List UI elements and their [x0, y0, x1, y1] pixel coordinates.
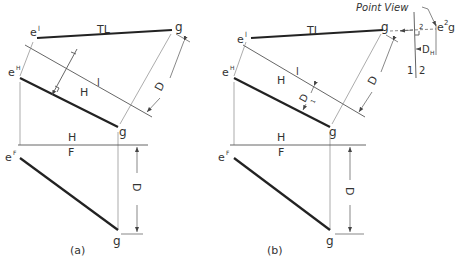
label-fold-2-top: 2 [419, 23, 423, 31]
horizontal-view-line [20, 78, 118, 127]
label-d-front: D [130, 183, 143, 191]
dim-aux-upper [381, 41, 393, 72]
label-e-sup: l [245, 31, 247, 39]
front-view-line [20, 158, 118, 230]
label-hf-h: H [68, 131, 76, 144]
label-d-front: D [343, 187, 356, 195]
label-fold-h: H [80, 86, 88, 99]
label-d-aux: D [152, 80, 167, 94]
projector-g [120, 34, 171, 124]
fold-line-h1 [25, 45, 152, 117]
descriptive-geometry-figure: e l g TL e H g H l H F e F g D D (a) [0, 0, 460, 261]
label-hf-f: F [278, 146, 284, 159]
label-ef: e [5, 151, 12, 164]
label-e: e [237, 33, 244, 46]
dim-d1-upper [311, 86, 314, 93]
label-ef-sup: F [226, 149, 230, 156]
label-eh: e [222, 66, 229, 79]
dim-aux-upper [170, 41, 184, 78]
label-ef-sup: F [13, 149, 17, 156]
label-ef: e [218, 151, 225, 164]
label-g-top: g [175, 20, 183, 34]
label-g-front: g [113, 234, 121, 248]
panel-b-labels: e l g TL e H g H l D 1 D H F e F g D (b)… [218, 2, 455, 257]
label-eh-sup: H [16, 64, 21, 71]
label-fold-1: 1 [407, 65, 413, 76]
label-eh: e [8, 66, 15, 79]
label-fold-h: H [277, 74, 285, 87]
label-g-h: g [119, 125, 127, 139]
panel-a-labels: e l g TL e H g H l H F e F g D D (a) [5, 20, 183, 257]
label-e2: e [437, 21, 444, 34]
label-tl: TL [96, 23, 111, 36]
right-angle-mark [415, 31, 419, 35]
point-view-leader [422, 7, 436, 26]
caption-b: (b) [267, 244, 283, 257]
label-fold-2: 2 [419, 65, 425, 76]
label-eh-sup: H [230, 64, 235, 71]
label-dh: D [422, 44, 430, 55]
label-g-top: g [381, 20, 389, 34]
projector-e [20, 42, 33, 76]
label-e2-g: g [448, 21, 455, 34]
dim-ext-top [386, 35, 398, 42]
dim-ext-top [176, 34, 190, 42]
panel-a [18, 30, 190, 234]
label-tl: TL [306, 24, 321, 37]
dim-d1-lower [303, 104, 306, 110]
label-g-h: g [329, 125, 337, 139]
label-fold-1: l [296, 66, 299, 77]
label-hf-f: F [68, 146, 74, 159]
label-e-sup: l [38, 25, 40, 33]
label-d-aux: D [365, 74, 380, 88]
projector-e [234, 42, 246, 76]
label-point-view: Point View [356, 2, 409, 13]
label-g-front: g [326, 234, 334, 248]
fold-line-h1 [243, 45, 365, 117]
label-hf-h: H [277, 131, 285, 144]
label-e: e [30, 26, 37, 39]
dim-aux-lower [359, 92, 372, 112]
dim-aux-lower [147, 98, 160, 112]
caption-a: (a) [70, 244, 85, 257]
fold-line-12 [414, 12, 416, 78]
label-dh-sub: H [430, 49, 435, 56]
front-view-line [234, 158, 330, 230]
panel-b [230, 7, 436, 234]
label-d1-sub: 1 [309, 98, 317, 105]
label-fold-1: l [97, 77, 100, 88]
